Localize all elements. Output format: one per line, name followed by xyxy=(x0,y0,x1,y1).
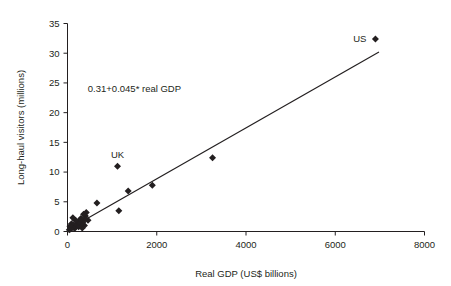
data-point-label-us: US xyxy=(353,33,366,44)
scatter-chart-figure: 0510152025303502000400060008000Real GDP … xyxy=(0,0,451,286)
regression-line xyxy=(68,52,379,230)
x-axis-title: Real GDP (US$ billions) xyxy=(195,268,297,279)
data-point-us xyxy=(372,35,379,42)
y-axis-tick-label-10: 10 xyxy=(49,166,60,177)
y-axis-tick-label-15: 15 xyxy=(49,137,60,148)
x-axis-tick-label-6000: 6000 xyxy=(325,239,346,250)
y-axis-tick-label-20: 20 xyxy=(49,107,60,118)
y-axis-tick-label-0: 0 xyxy=(54,226,59,237)
y-axis-tick-label-30: 30 xyxy=(49,48,60,59)
x-axis-tick-label-2000: 2000 xyxy=(146,239,167,250)
y-axis-tick-label-5: 5 xyxy=(54,196,59,207)
chart-canvas: 0510152025303502000400060008000Real GDP … xyxy=(0,0,451,286)
data-point xyxy=(209,154,216,161)
regression-equation-annotation: 0.31+0.045* real GDP xyxy=(88,83,181,94)
y-axis-title: Long-haul visitors (millions) xyxy=(15,70,26,185)
data-point-uk xyxy=(114,163,121,170)
data-point-label-uk: UK xyxy=(111,149,125,160)
x-axis-tick-label-4000: 4000 xyxy=(235,239,256,250)
data-point xyxy=(93,199,100,206)
y-axis-tick-label-25: 25 xyxy=(49,77,60,88)
x-axis-tick-label-8000: 8000 xyxy=(414,239,435,250)
data-point xyxy=(115,207,122,214)
x-axis-tick-label-0: 0 xyxy=(65,239,70,250)
y-axis-tick-label-35: 35 xyxy=(49,18,60,29)
